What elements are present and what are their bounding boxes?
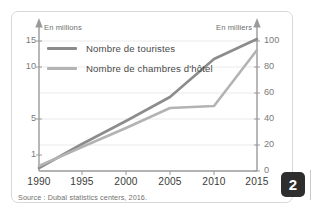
x-tick-2010: 2010 [194, 176, 234, 187]
legend-swatch-tourists-icon [47, 47, 77, 50]
y-tick-right-100: 100 [264, 35, 279, 45]
y-tick-left-10: 10 [14, 61, 36, 71]
legend-item-hotel-rooms: Nombre de chambres d'hôtel [47, 60, 213, 76]
legend-swatch-hotel-rooms-icon [47, 67, 77, 70]
x-tick-1990: 1990 [19, 176, 59, 187]
chart-figure: 15 10 5 1 100 80 60 40 20 0 1990 1995 20… [0, 0, 314, 221]
legend-label-tourists: Nombre de touristes [86, 43, 175, 54]
figure-number-badge: 2 [281, 172, 305, 197]
y-tick-right-80: 80 [264, 61, 274, 71]
y-tick-right-60: 60 [264, 87, 274, 97]
legend-label-hotel-rooms: Nombre de chambres d'hôtel [86, 63, 213, 74]
legend-item-tourists: Nombre de touristes [47, 40, 213, 56]
source-note: Source : Dubaï statistics centers, 2016. [18, 193, 147, 202]
y-tick-right-40: 40 [264, 113, 274, 123]
y-tick-left-15: 15 [14, 35, 36, 45]
right-axis-unit-label: En milliers [216, 23, 252, 32]
x-tick-1995: 1995 [62, 176, 102, 187]
x-axis [39, 171, 257, 175]
y-tick-right-20: 20 [264, 139, 274, 149]
x-tick-2005: 2005 [150, 176, 190, 187]
x-tick-2000: 2000 [106, 176, 146, 187]
page-edge-rule [310, 170, 311, 200]
x-tick-2015: 2015 [237, 176, 277, 187]
chart-legend: Nombre de touristes Nombre de chambres d… [47, 40, 213, 80]
left-axis-unit-label: En millions [44, 23, 82, 32]
y-tick-right-0: 0 [264, 165, 269, 175]
y-axis-left [35, 18, 42, 171]
y-tick-left-5: 5 [14, 113, 36, 123]
y-tick-left-1: 1 [14, 149, 36, 159]
